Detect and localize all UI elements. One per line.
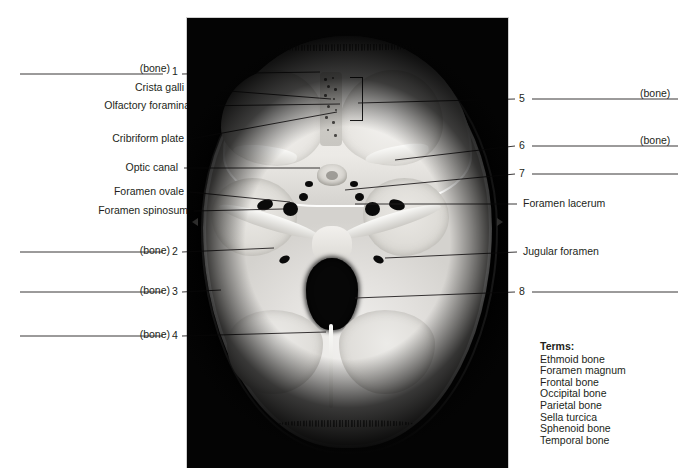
label-5-bone: (bone): [640, 88, 670, 99]
label-7-number: 7: [519, 167, 525, 179]
label-jugular-foramen: Jugular foramen: [523, 246, 599, 257]
label-5-number: 5: [519, 92, 525, 104]
terms-list: Ethmoid bone Foramen magnum Frontal bone…: [540, 354, 626, 447]
label-olfactory-foramina: Olfactory foramina: [40, 100, 190, 111]
label-6-bone: (bone): [640, 135, 670, 146]
leader-2n: [182, 248, 274, 252]
term-item: Sphenoid bone: [540, 423, 626, 435]
label-crista-galli: Crista galli: [60, 82, 184, 93]
leader-5r: [358, 99, 515, 103]
label-foramen-ovale: Foramen ovale: [50, 186, 184, 197]
term-item: Parietal bone: [540, 400, 626, 412]
label-4-bone: (bone): [60, 329, 170, 340]
leader-2: [190, 88, 331, 99]
leader-8r: [355, 292, 515, 298]
leader-jugular: [385, 252, 517, 258]
leader-3n: [182, 290, 221, 292]
label-1-bone: (bone): [60, 63, 170, 74]
leader-6: [190, 192, 290, 202]
label-2-number: 2: [172, 245, 178, 257]
label-2-bone: (bone): [60, 245, 170, 256]
terms-heading: Terms:: [540, 341, 626, 353]
leader-7r: [345, 174, 515, 190]
label-4-number: 4: [172, 329, 178, 341]
leader-6r: [395, 146, 515, 160]
label-foramen-spinosum: Foramen spinosum: [40, 205, 188, 216]
label-3-number: 3: [172, 285, 178, 297]
label-3-bone: (bone): [60, 285, 170, 296]
label-cribriform-plate: Cribriform plate: [50, 133, 184, 144]
leader-1: [182, 72, 320, 74]
label-6-number: 6: [519, 139, 525, 151]
leader-4: [190, 112, 337, 139]
label-1-number: 1: [172, 65, 178, 77]
label-optic-canal: Optic canal: [60, 162, 178, 173]
label-8-number: 8: [519, 285, 525, 297]
leader-4n: [182, 332, 326, 336]
leader-7: [194, 209, 283, 211]
leader-3: [196, 104, 340, 106]
label-foramen-lacerum: Foramen lacerum: [523, 198, 605, 209]
terms-box: Terms: Ethmoid bone Foramen magnum Front…: [540, 341, 626, 446]
term-item: Temporal bone: [540, 435, 626, 447]
